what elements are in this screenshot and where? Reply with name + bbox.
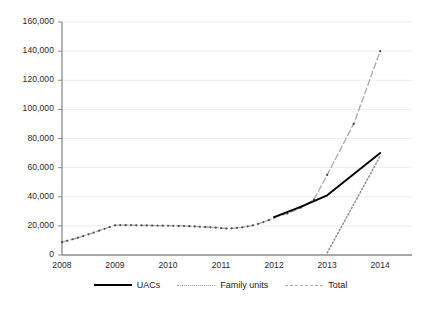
x-axis-tick-label: 2008 xyxy=(37,260,87,270)
x-axis-tick-label: 2009 xyxy=(90,260,140,270)
chart-container: 020,00040,00060,00080,000100,000120,0001… xyxy=(0,0,441,309)
legend-swatch-dotted-line-icon xyxy=(177,285,215,286)
series-family-units xyxy=(327,156,380,253)
y-axis-tick-label: 60,000 xyxy=(0,162,54,172)
x-axis-tick-label: 2011 xyxy=(196,260,246,270)
legend-label-total: Total xyxy=(328,280,347,290)
legend-item-family-units[interactable]: Family units xyxy=(177,280,268,290)
x-axis-tick-label: 2014 xyxy=(355,260,405,270)
legend-item-total[interactable]: Total xyxy=(285,280,347,290)
legend-label-uacs: UACs xyxy=(137,280,161,290)
y-axis-tick-label: 120,000 xyxy=(0,74,54,84)
y-axis-tick-label: 100,000 xyxy=(0,103,54,113)
legend-label-family-units: Family units xyxy=(220,280,268,290)
x-axis-tick-label: 2010 xyxy=(143,260,193,270)
x-axis-tick-label: 2012 xyxy=(249,260,299,270)
x-axis-tick-label: 2013 xyxy=(302,260,352,270)
y-axis-tick-label: 20,000 xyxy=(0,220,54,230)
legend-swatch-solid-line-icon xyxy=(94,284,132,286)
chart-legend: UACs Family units Total xyxy=(0,280,441,290)
y-axis-tick-label: 40,000 xyxy=(0,191,54,201)
legend-swatch-dashed-line-icon xyxy=(285,285,323,286)
y-axis-tick-label: 80,000 xyxy=(0,133,54,143)
series-total xyxy=(61,50,381,243)
y-axis-tick-label: 140,000 xyxy=(0,45,54,55)
y-axis-tick-label: 0 xyxy=(0,249,54,259)
y-axis-tick-label: 160,000 xyxy=(0,16,54,26)
legend-item-uacs[interactable]: UACs xyxy=(94,280,161,290)
